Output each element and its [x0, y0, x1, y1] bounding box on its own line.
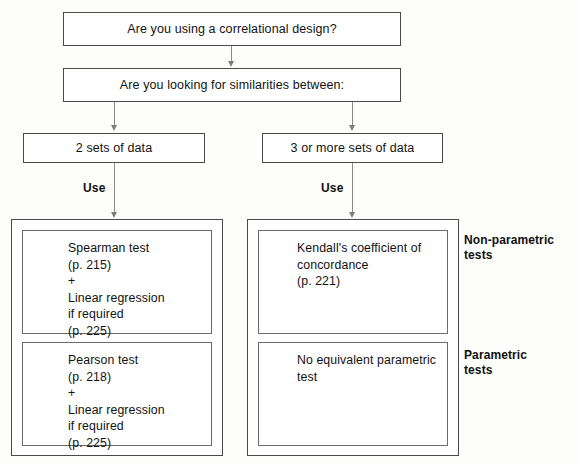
- branch-right-label: 3 or more sets of data: [291, 141, 415, 156]
- branch-left-label: 2 sets of data: [76, 141, 152, 156]
- side-label-non-parametric-tests: Non-parametric tests: [464, 233, 554, 263]
- result-box-no-equivalent-parametric: No equivalent parametric test: [258, 342, 448, 446]
- connector-left-branch-to-panel: [114, 163, 115, 213]
- arrowhead-left-branch-icon: [111, 125, 117, 131]
- arrowhead-q1-to-q2-icon: [228, 61, 234, 67]
- result-box-pearson-test: Pearson test (p. 218) + Linear regressio…: [22, 342, 212, 446]
- branch-box-three-or-more-sets-of-data: 3 or more sets of data: [262, 133, 443, 163]
- arrowhead-left-panel-icon: [111, 212, 117, 218]
- connector-q2-to-left-branch: [114, 102, 115, 126]
- branch-box-two-sets-of-data: 2 sets of data: [23, 133, 205, 163]
- result-box-kendall-coefficient: Kendall's coefficient of concordance (p.…: [258, 230, 448, 334]
- flowchart-canvas: Are you using a correlational design? Ar…: [0, 0, 579, 464]
- use-label-right: Use: [321, 181, 344, 195]
- question-box-similarities-between: Are you looking for similarities between…: [63, 68, 401, 102]
- question-box-correlational-design: Are you using a correlational design?: [63, 12, 401, 46]
- result-spearman-text: Spearman test (p. 215) + Linear regressi…: [68, 240, 201, 339]
- connector-right-branch-to-panel: [352, 163, 353, 213]
- question-1-label: Are you using a correlational design?: [127, 22, 336, 37]
- use-label-left: Use: [83, 181, 106, 195]
- result-no-equivalent-text: No equivalent parametric test: [297, 352, 437, 385]
- results-panel-three-or-more-sets: Kendall's coefficient of concordance (p.…: [247, 219, 459, 456]
- connector-q1-to-q2: [231, 46, 232, 62]
- side-label-parametric-tests: Parametric tests: [464, 348, 527, 378]
- result-kendall-text: Kendall's coefficient of concordance (p.…: [297, 240, 437, 290]
- connector-q2-to-right-branch: [352, 102, 353, 126]
- results-panel-two-sets: Spearman test (p. 215) + Linear regressi…: [11, 219, 223, 456]
- question-2-label: Are you looking for similarities between…: [120, 78, 344, 93]
- result-pearson-text: Pearson test (p. 218) + Linear regressio…: [68, 352, 201, 451]
- arrowhead-right-branch-icon: [349, 125, 355, 131]
- arrowhead-right-panel-icon: [349, 212, 355, 218]
- result-box-spearman-test: Spearman test (p. 215) + Linear regressi…: [22, 230, 212, 334]
